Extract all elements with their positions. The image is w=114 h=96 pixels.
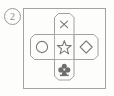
pad-vertical-arm-outline — [55, 14, 75, 81]
directional-pad — [0, 0, 114, 96]
x-mark-icon[interactable] — [61, 21, 68, 27]
pad-horizontal-arm-outline — [31, 35, 99, 60]
diamond-icon[interactable] — [80, 41, 92, 53]
club-icon[interactable] — [58, 64, 70, 76]
circle-icon[interactable] — [36, 41, 47, 52]
figure-root: 2 — [0, 0, 114, 96]
star-icon[interactable] — [57, 41, 71, 54]
